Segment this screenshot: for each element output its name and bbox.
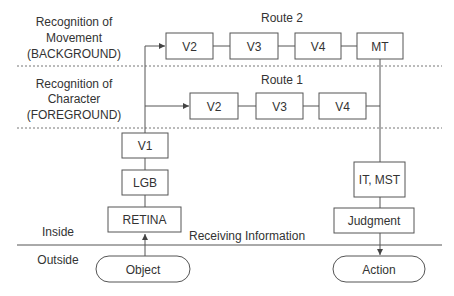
route2-v4-box: V4: [295, 33, 341, 59]
svg-text:V3: V3: [272, 100, 287, 114]
svg-text:(BACKGROUND): (BACKGROUND): [27, 47, 121, 61]
receiving-information-label: Receiving Information: [189, 229, 305, 243]
svg-text:IT, MST: IT, MST: [359, 173, 401, 187]
route1-v2-box: V2: [190, 93, 238, 119]
svg-text:Movement: Movement: [46, 31, 103, 45]
svg-text:V1: V1: [138, 139, 153, 153]
route1-title: Route 1: [261, 73, 303, 87]
svg-text:Judgment: Judgment: [348, 214, 401, 228]
object-node: Object: [96, 256, 190, 282]
route2-mt-box: MT: [357, 33, 403, 59]
svg-text:(FOREGROUND): (FOREGROUND): [27, 108, 122, 122]
svg-text:LGB: LGB: [133, 176, 157, 190]
svg-text:RETINA: RETINA: [122, 213, 166, 227]
route2-v2-box: V2: [166, 33, 213, 59]
retina-box: RETINA: [108, 207, 181, 232]
route2-title: Route 2: [261, 11, 303, 25]
v1-box: V1: [122, 133, 168, 158]
lgb-box: LGB: [122, 170, 168, 195]
svg-text:Action: Action: [362, 263, 395, 277]
route2-v3-box: V3: [230, 33, 278, 59]
svg-text:Recognition of: Recognition of: [36, 77, 113, 91]
svg-text:V4: V4: [311, 40, 326, 54]
judgment-box: Judgment: [334, 208, 414, 233]
visual-pathway-diagram: Recognition of Movement (BACKGROUND) Rec…: [0, 0, 454, 296]
svg-text:Recognition of: Recognition of: [36, 15, 113, 29]
character-region-label: Recognition of Character (FOREGROUND): [27, 77, 122, 122]
svg-text:Object: Object: [126, 263, 161, 277]
svg-text:MT: MT: [371, 40, 389, 54]
route1-v3-box: V3: [256, 93, 303, 119]
route1-v4-box: V4: [319, 93, 366, 119]
inside-label: Inside: [42, 225, 74, 239]
svg-text:V2: V2: [182, 40, 197, 54]
outside-label: Outside: [37, 253, 79, 267]
svg-text:V3: V3: [247, 40, 262, 54]
svg-text:V2: V2: [207, 100, 222, 114]
action-node: Action: [333, 256, 425, 282]
it-mst-box: IT, MST: [354, 162, 405, 197]
movement-region-label: Recognition of Movement (BACKGROUND): [27, 15, 121, 61]
svg-text:Character: Character: [48, 92, 101, 106]
svg-text:V4: V4: [335, 100, 350, 114]
